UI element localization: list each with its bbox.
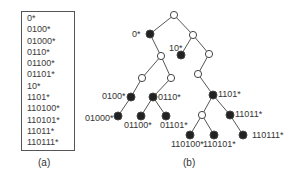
- prefix-node-filled: [210, 131, 218, 139]
- internal-node-hollow: [157, 52, 164, 59]
- node-label: 10*: [169, 43, 183, 53]
- node-label: 01000*: [85, 113, 114, 123]
- prefix-node-filled: [137, 112, 145, 120]
- internal-node-hollow: [138, 74, 145, 81]
- prefix-node-filled: [239, 131, 247, 139]
- trie-edge: [150, 15, 174, 34]
- node-label: 0100*: [102, 91, 126, 101]
- node-label: 01100*: [124, 120, 152, 130]
- trie-labels: 0*10*0100*0110*1101*01000*01100*01101*11…: [85, 29, 284, 149]
- node-label: 110111*: [252, 130, 284, 140]
- prefix-node-filled: [149, 93, 157, 101]
- node-label: 11011*: [235, 109, 263, 119]
- prefix-node-filled: [162, 112, 170, 120]
- trie-edge: [174, 15, 193, 35]
- internal-node-hollow: [205, 50, 212, 57]
- node-label: 110101*: [203, 139, 236, 149]
- internal-node-hollow: [198, 111, 205, 118]
- internal-node-hollow: [170, 11, 177, 18]
- node-label: 1101*: [218, 89, 241, 99]
- prefix-node-filled: [146, 30, 154, 38]
- node-label: 0*: [132, 29, 141, 39]
- prefix-node-filled: [127, 93, 135, 101]
- node-label: 110100*: [171, 139, 204, 149]
- node-label: 01101*: [160, 120, 188, 130]
- trie-edge: [142, 56, 161, 78]
- node-label: 0110*: [158, 92, 181, 102]
- internal-node-hollow: [167, 74, 174, 81]
- prefix-node-filled: [209, 91, 217, 99]
- binary-trie-diagram: 0*10*0100*0110*1101*01000*01100*01101*11…: [0, 0, 303, 185]
- prefix-node-filled: [186, 131, 194, 139]
- internal-node-hollow: [189, 31, 196, 38]
- prefix-node-filled: [114, 112, 122, 120]
- internal-node-hollow: [194, 70, 201, 77]
- prefix-node-filled: [226, 111, 234, 119]
